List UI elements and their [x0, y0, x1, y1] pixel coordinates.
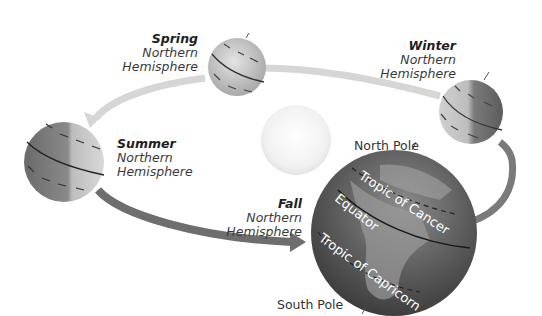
- hemisphere-line1: Northern: [210, 211, 302, 225]
- orbit-illustration: Tropic of Cancer Equator Tropic of Capri…: [0, 0, 542, 316]
- label-fall: Fall Northern Hemisphere: [210, 197, 302, 239]
- seasons-diagram: Tropic of Cancer Equator Tropic of Capri…: [0, 0, 542, 316]
- season-name: Summer: [117, 137, 217, 151]
- season-name: Spring: [108, 32, 198, 46]
- earth-spring: [208, 33, 266, 96]
- earth-fall: Tropic of Cancer Equator Tropic of Capri…: [311, 142, 477, 316]
- orbit-arrow-fall-to-winter: [470, 142, 513, 222]
- hemisphere-line2: Hemisphere: [210, 225, 302, 239]
- sun: [261, 105, 331, 175]
- season-name: Winter: [368, 39, 456, 53]
- orbit-arrow-spring-to-summer: [96, 78, 205, 118]
- hemisphere-line1: Northern: [368, 53, 456, 67]
- label-spring: Spring Northern Hemisphere: [108, 32, 198, 74]
- season-name: Fall: [210, 197, 302, 211]
- label-winter: Winter Northern Hemisphere: [368, 39, 456, 81]
- hemisphere-line2: Hemisphere: [368, 67, 456, 81]
- label-summer: Summer Northern Hemisphere: [117, 137, 217, 179]
- hemisphere-line2: Hemisphere: [108, 60, 198, 74]
- hemisphere-line2: Hemisphere: [117, 165, 217, 179]
- south-pole-label: South Pole: [277, 297, 343, 312]
- earth-summer: [24, 122, 104, 202]
- hemisphere-line1: Northern: [117, 151, 217, 165]
- hemisphere-line1: Northern: [108, 46, 198, 60]
- earth-winter: [439, 72, 503, 144]
- north-pole-label: North Pole: [354, 138, 419, 153]
